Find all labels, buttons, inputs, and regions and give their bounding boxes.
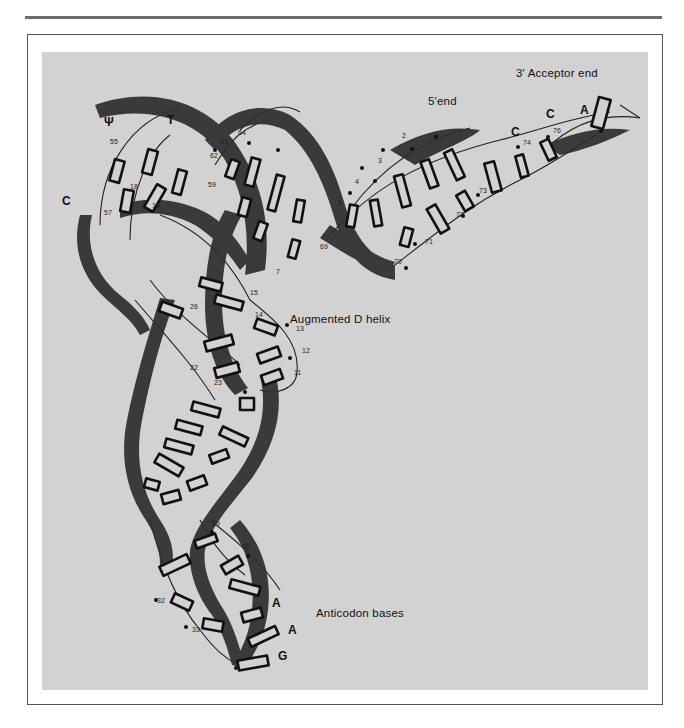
residue-57: 57	[104, 209, 112, 216]
residue-23: 23	[214, 379, 222, 386]
residue-62: 62	[210, 152, 218, 159]
acceptor-base-a: A	[580, 103, 589, 117]
residue-14: 14	[255, 311, 263, 318]
residue-12: 12	[302, 347, 310, 354]
residue-73: 73	[479, 187, 487, 194]
residue-32: 32	[157, 597, 165, 604]
residue-3: 3	[378, 157, 382, 164]
residue-26: 26	[190, 303, 198, 310]
residue-71: 71	[425, 238, 433, 245]
c-loop-label: C	[62, 194, 71, 208]
residue-64: 64	[238, 129, 246, 136]
residue-55: 55	[110, 138, 118, 145]
residue-7: 7	[276, 268, 280, 275]
residue-38: 38	[242, 543, 250, 550]
anticodon-bases-label: Anticodon bases	[316, 607, 404, 619]
residue-69: 69	[320, 243, 328, 250]
psi-label: Ψ	[104, 115, 114, 129]
residue-19: 19	[152, 202, 160, 209]
residue-70: 70	[394, 258, 402, 265]
ribbons	[77, 96, 630, 668]
anticodon-base-a2: A	[288, 623, 297, 637]
residue-13: 13	[296, 325, 304, 332]
residue-39: 39	[212, 520, 220, 527]
residue-11: 11	[294, 369, 301, 376]
residue-59: 59	[208, 181, 216, 188]
augmented-d-helix-label: Augmented D helix	[290, 313, 391, 325]
residue-15: 15	[250, 289, 258, 296]
residue-18: 18	[130, 183, 138, 190]
residue-72: 72	[456, 211, 464, 218]
residue-22: 22	[190, 364, 198, 371]
residue-76: 76	[553, 127, 561, 134]
residue-63: 63	[220, 138, 228, 145]
residue-2: 2	[402, 132, 406, 139]
residue-4: 4	[355, 178, 359, 185]
residue-33: 33	[192, 626, 200, 633]
anticodon-base-g: G	[278, 649, 287, 663]
acceptor-end-label: 3′ Acceptor end	[516, 67, 598, 79]
acceptor-base-c1: C	[511, 125, 520, 139]
anticodon-base-a1: A	[272, 596, 281, 610]
t-label: T	[167, 113, 174, 127]
acceptor-base-c2: C	[546, 107, 555, 121]
base-plates	[109, 97, 610, 671]
residue-5: 5	[338, 199, 342, 206]
residue-74: 74	[523, 139, 531, 146]
five-prime-end-label: 5′end	[428, 95, 457, 107]
